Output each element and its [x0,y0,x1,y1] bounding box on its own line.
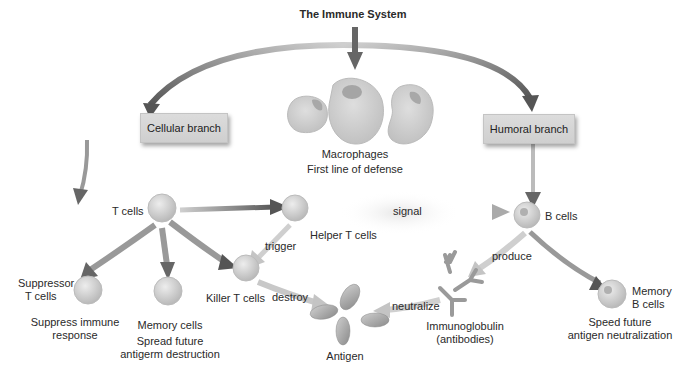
memory-b-caption-2: antigen neutralization [555,329,685,342]
b-cells-label: B cells [545,210,577,223]
suppressor-t-label-2: T cells [25,290,57,303]
humoral-branch-box: Humoral branch [483,114,575,144]
neutralize-label: neutralize [392,300,440,313]
memory-cell-icon [154,277,182,305]
humoral-branch-label: Humoral branch [490,123,568,135]
helper-t-cells-label: Helper T cells [310,229,377,242]
trigger-label: trigger [265,240,296,253]
killer-t-cells-label: Killer T cells [206,292,265,305]
arc-to-cellular [150,45,343,105]
suppressor-t-label-1: Suppressor [18,277,74,290]
memory-b-label-2: B cells [632,298,664,311]
macrophages-illustration [288,78,434,144]
macrophages-label: Macrophages [295,148,415,161]
destroy-label: destroy [272,291,308,304]
diagram-title: The Immune System [293,8,413,21]
memory-b-label-1: Memory [632,285,672,298]
antigen-label: Antigen [315,350,375,363]
immunoglobulin-label-2: (antibodies) [420,333,510,346]
macrophages-caption: First line of defense [285,163,425,176]
helper-t-cell-icon [282,195,308,221]
t-cell-icon [148,194,176,222]
title-down-arrow [347,27,363,70]
b-cell-icon [514,202,540,228]
antigen-icon [309,281,389,345]
suppressor-caption-1: Suppress immune [20,316,130,329]
memory-caption-1: Spread future [110,335,230,348]
produce-label: produce [492,250,532,263]
memory-caption-2: antigerm destruction [110,348,230,361]
memory-b-caption-1: Speed future [560,316,680,329]
t-cells-label: T cells [112,205,144,218]
cellular-branch-label: Cellular branch [147,122,221,134]
antibody-icons [440,252,482,315]
suppressor-t-cell-icon [74,276,102,304]
killer-t-cell-icon [233,255,259,281]
memory-b-cell-icon [598,280,626,308]
memory-cells-label: Memory cells [120,319,220,332]
signal-label: signal [393,205,422,218]
immunoglobulin-label-1: Immunoglobulin [420,320,510,333]
cellular-branch-box: Cellular branch [140,113,228,143]
diagram-artwork [0,0,687,370]
